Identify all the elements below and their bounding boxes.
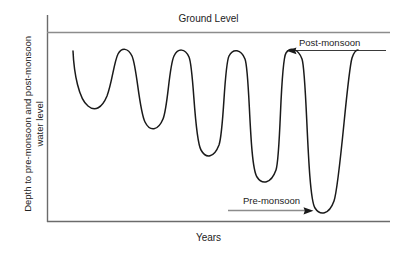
y-axis-label: Depth to pre-monsoon and post-monsoon wa… xyxy=(22,29,46,219)
post-monsoon-annotation xyxy=(287,47,387,54)
y-axis-label-line-1: Depth to pre-monsoon and post-monsoon xyxy=(22,36,33,212)
x-axis-label: Years xyxy=(0,233,417,243)
y-axis-label-line-2: water level xyxy=(34,101,45,146)
pre-monsoon-annotation xyxy=(228,207,314,214)
groundwater-hydrograph-figure: Ground Level Post-monsoon Pre-monsoon Ye… xyxy=(0,0,417,253)
pre-monsoon-label: Pre-monsoon xyxy=(243,196,300,206)
pre-monsoon-arrowhead xyxy=(304,207,314,214)
post-monsoon-label: Post-monsoon xyxy=(299,38,360,48)
ground-level-label: Ground Level xyxy=(0,14,417,24)
water-level-curve xyxy=(73,49,358,213)
